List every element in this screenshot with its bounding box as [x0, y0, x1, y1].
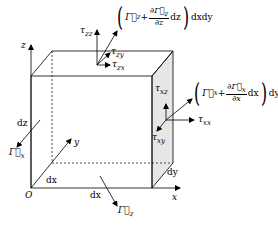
front-face [31, 76, 152, 188]
top-flux-expression: ( Γ⃗z + ∂Γ⃗z ∂z dz ) dxdy [115, 4, 213, 30]
tau-xy-label: τxy [152, 133, 165, 145]
gamma-x-label: Γ⃗x [9, 148, 25, 160]
gamma-z-label: Γ⃗z [118, 206, 133, 218]
x-axis-label: x [172, 193, 177, 202]
tau-xx-label: τxx [198, 115, 211, 127]
tau-xz-label: τxz [155, 84, 168, 96]
dx-bottom-label: dx [90, 191, 101, 200]
origin-label: O [25, 191, 32, 200]
gamma-z-inflow-arrow [100, 176, 117, 206]
z-axis-label: z [21, 41, 26, 50]
top-fraction: ∂Γ⃗z ∂z [149, 7, 169, 27]
control-volume-diagram [0, 0, 278, 227]
right-fraction: ∂Γ⃗x ∂x [226, 83, 246, 103]
tau-zy-arrow [97, 53, 110, 65]
right-flux-expression: ( Γ⃗x + ∂Γ⃗x ∂x dx ) dydz [192, 80, 278, 106]
y-axis-label: y [74, 138, 79, 147]
tau-zy-label: τzy [111, 47, 124, 59]
dy-label: dy [167, 168, 178, 177]
dz-label: dz [17, 119, 28, 128]
dx-depth-label: dx [46, 176, 57, 185]
tau-zz-label: τzz [80, 26, 92, 38]
tau-zx-label: τzx [112, 60, 125, 72]
